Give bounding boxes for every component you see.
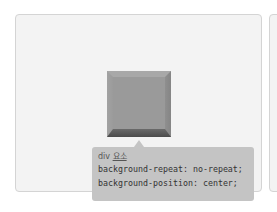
callout-title: div 요소 xyxy=(98,151,248,162)
square-left-bevel xyxy=(107,71,113,137)
square-face xyxy=(113,77,165,129)
css-callout-tooltip: div 요소 background-repeat: no-repeat; bac… xyxy=(92,147,254,201)
next-demo-panel xyxy=(269,14,277,192)
square-top-bevel xyxy=(107,71,171,77)
beveled-square-background-image xyxy=(107,71,171,137)
element-label: 요소 xyxy=(113,152,127,161)
css-line-repeat: background-repeat: no-repeat; xyxy=(98,162,248,176)
element-tag: div xyxy=(98,152,110,161)
square-right-bevel xyxy=(165,71,171,137)
css-line-position: background-position: center; xyxy=(98,176,248,190)
square-bottom-bevel xyxy=(107,129,171,137)
